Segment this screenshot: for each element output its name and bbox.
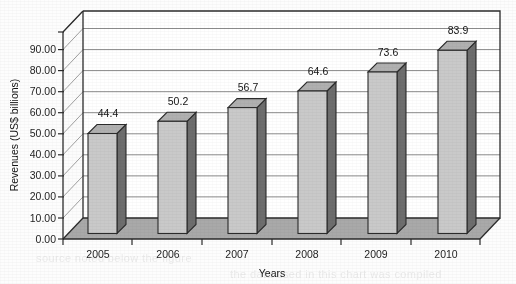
bar-2006-side bbox=[187, 112, 196, 233]
x-axis-title: Years bbox=[259, 267, 285, 279]
bar-value-label-2005: 44.4 bbox=[98, 107, 119, 119]
x-axis-category-labels: 2005 2006 2007 2008 2009 2010 bbox=[86, 248, 458, 260]
plot-floor bbox=[63, 218, 500, 239]
x-tick-label-2006: 2006 bbox=[156, 248, 180, 260]
bar-2010[interactable] bbox=[438, 41, 476, 233]
bar-chart: 0.00 10.00 20.00 30.00 40.00 50.00 60.00… bbox=[0, 0, 516, 284]
bar-2010-side bbox=[467, 41, 476, 233]
y-tick-label-40: 40.00 bbox=[30, 148, 56, 160]
bar-value-label-2008: 64.6 bbox=[308, 65, 329, 77]
bar-value-label-2007: 56.7 bbox=[238, 81, 259, 93]
bar-2008-front bbox=[298, 91, 327, 234]
y-tick-label-80: 80.00 bbox=[30, 64, 56, 76]
y-tick-label-10: 10.00 bbox=[30, 212, 56, 224]
x-tick-label-2007: 2007 bbox=[225, 248, 249, 260]
y-tick-label-0: 0.00 bbox=[36, 233, 57, 245]
chart-figure: on the first page of the document scanne… bbox=[0, 0, 516, 284]
bar-value-label-2010: 83.9 bbox=[448, 24, 469, 36]
y-tick-label-20: 20.00 bbox=[30, 190, 56, 202]
bar-2005-side bbox=[117, 125, 126, 234]
y-tick-label-90: 90.00 bbox=[30, 43, 56, 55]
bar-2007-side bbox=[257, 99, 266, 234]
bar-2007[interactable] bbox=[228, 99, 266, 234]
y-tick-label-30: 30.00 bbox=[30, 169, 56, 181]
y-tick-label-60: 60.00 bbox=[30, 106, 56, 118]
bar-2008[interactable] bbox=[298, 82, 336, 234]
x-tick-label-2010: 2010 bbox=[434, 248, 458, 260]
bar-2007-front bbox=[228, 108, 257, 234]
bar-2005[interactable] bbox=[88, 125, 126, 234]
bar-2010-front bbox=[438, 50, 467, 233]
x-axis-ticks bbox=[63, 239, 480, 245]
bar-2009-side bbox=[397, 63, 406, 234]
bar-value-label-2006: 50.2 bbox=[168, 95, 189, 107]
bar-2006[interactable] bbox=[158, 112, 196, 233]
bar-value-label-2009: 73.6 bbox=[378, 46, 399, 58]
bar-2009[interactable] bbox=[368, 63, 406, 234]
bar-2008-side bbox=[327, 82, 336, 234]
x-tick-label-2008: 2008 bbox=[295, 248, 319, 260]
y-tick-label-70: 70.00 bbox=[30, 85, 56, 97]
bar-2006-front bbox=[158, 121, 187, 233]
plot-left-wall bbox=[63, 11, 83, 239]
y-axis-title: Revenues (US$ billions) bbox=[8, 79, 20, 192]
y-axis-tick-labels: 0.00 10.00 20.00 30.00 40.00 50.00 60.00… bbox=[30, 43, 56, 244]
x-tick-label-2009: 2009 bbox=[364, 248, 388, 260]
y-tick-label-50: 50.00 bbox=[30, 127, 56, 139]
bar-2005-front bbox=[88, 134, 117, 234]
x-tick-label-2005: 2005 bbox=[86, 248, 110, 260]
bar-2009-front bbox=[368, 72, 397, 234]
